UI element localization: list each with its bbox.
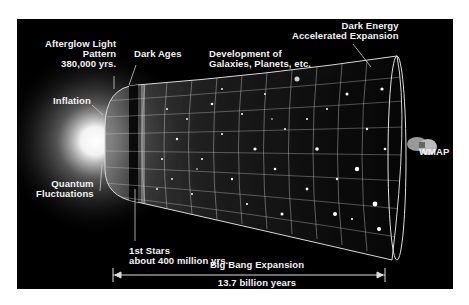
development-label: Development of Galaxies, Planets, etc. (209, 49, 311, 69)
dark-ages-label: Dark Ages (134, 49, 182, 59)
dark-energy-label: Dark Energy Accelerated Expansion (292, 21, 399, 41)
wmap-label: WMAP (419, 147, 449, 157)
duration-label: 13.7 billion years (202, 278, 312, 288)
inflation-label: Inflation (53, 96, 91, 106)
universe-timeline-diagram: Afterglow Light Pattern 380,000 yrs. Dar… (17, 19, 453, 289)
big-bang-expansion-label: Big Bang Expansion (202, 260, 312, 270)
afterglow-label: Afterglow Light Pattern 380,000 yrs. (45, 39, 116, 69)
quantum-fluctuations-label: Quantum Fluctuations (36, 179, 94, 199)
